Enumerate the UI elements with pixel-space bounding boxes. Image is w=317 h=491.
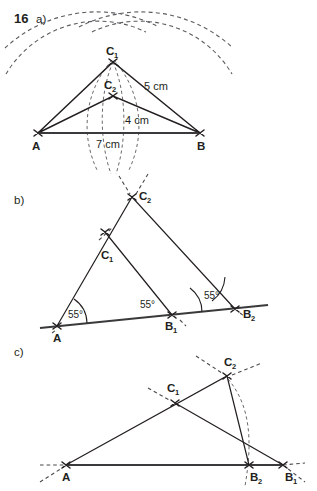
arc-from-b-radius-4 — [79, 12, 233, 48]
segment-c1-b1 — [105, 232, 172, 315]
part-a-caption: a) — [36, 13, 46, 25]
label-dimension-7cm: 7 cm — [96, 138, 120, 150]
label-c-point-b1-subscript: 1 — [293, 477, 297, 486]
arc-vertical-inner-right — [113, 62, 124, 174]
part-c-group: c) — [14, 346, 305, 486]
triangle-a-c2-b — [38, 96, 200, 133]
part-b-group: b) — [14, 174, 268, 344]
ray-near-c2-upper — [196, 356, 222, 373]
label-b-point-c1-subscript: 1 — [109, 255, 113, 264]
construction-diagram-svg: A B C 1 C 2 5 cm 4 cm 7 cm 16 a) b) — [0, 0, 317, 491]
label-b-point-b1: B 1 — [165, 320, 177, 335]
label-b-point-c1: C 1 — [101, 249, 113, 264]
label-c-point-b2-subscript: 2 — [258, 477, 262, 486]
label-b-point-c2: C 2 — [139, 190, 151, 205]
label-point-b: B — [197, 140, 205, 152]
label-b-point-a: A — [53, 332, 61, 344]
label-point-a: A — [32, 140, 40, 152]
label-c-point-c2: C 2 — [224, 356, 236, 371]
arc-from-a-radius-5 — [6, 21, 146, 74]
exercise-number: 16 — [14, 11, 28, 26]
ray-near-c2-right — [232, 363, 262, 375]
label-c-point-b1: B 1 — [285, 471, 297, 486]
label-c-point-a: A — [62, 471, 70, 483]
triangle-a-c2-b2-c — [66, 376, 249, 465]
label-b-point-b1-subscript: 1 — [173, 326, 177, 335]
ray-extension-through-c2-left — [119, 176, 130, 194]
label-point-c1: C 1 — [106, 45, 118, 60]
angle-arc-at-b1 — [190, 288, 202, 312]
label-dimension-4cm: 4 cm — [125, 114, 149, 126]
label-angle-b2-55: 55° — [204, 290, 219, 301]
label-point-c2: C 2 — [104, 79, 116, 94]
label-c-point-b2: B 2 — [250, 471, 262, 486]
arc-vertical-left — [87, 60, 112, 172]
label-point-c1-subscript: 1 — [114, 51, 118, 60]
label-b-point-b2-subscript: 2 — [251, 314, 255, 323]
part-c-caption: c) — [14, 346, 24, 358]
part-b-caption: b) — [14, 194, 24, 206]
label-angle-b1-55: 55° — [140, 299, 155, 310]
label-angle-a-55: 55° — [68, 309, 83, 320]
label-b-point-c2-subscript: 2 — [147, 196, 151, 205]
label-dimension-5cm: 5 cm — [144, 80, 168, 92]
label-c-point-c1: C 1 — [167, 382, 179, 397]
label-point-c2-subscript: 2 — [112, 85, 116, 94]
label-c-point-c1-subscript: 1 — [175, 388, 179, 397]
segment-c1-b1-c — [175, 403, 283, 465]
geometry-worksheet-figure: A B C 1 C 2 5 cm 4 cm 7 cm 16 a) b) — [0, 0, 317, 491]
label-c-point-c2-subscript: 2 — [232, 362, 236, 371]
label-b-point-b2: B 2 — [243, 308, 255, 323]
part-a-group: A B C 1 C 2 5 cm 4 cm 7 cm 16 a) — [5, 11, 233, 174]
tick-near-b1 — [180, 320, 186, 326]
